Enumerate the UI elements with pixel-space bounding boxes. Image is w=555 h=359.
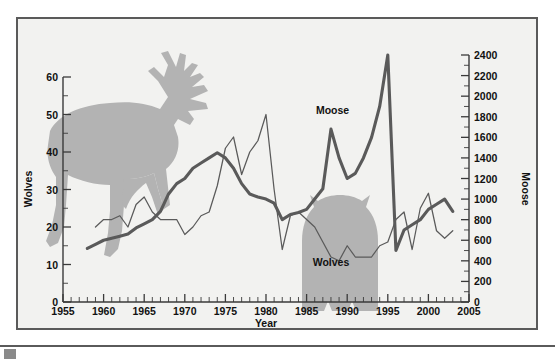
moose-series-label: Moose bbox=[316, 104, 349, 116]
y2-tick-label: 1200 bbox=[474, 173, 498, 185]
x-tick-label: 2005 bbox=[457, 305, 481, 317]
caption-divider bbox=[0, 345, 555, 347]
x-tick-label: 1995 bbox=[376, 305, 400, 317]
x-tick-label: 1990 bbox=[336, 305, 360, 317]
y2-tick-label: 1800 bbox=[474, 111, 498, 123]
y2-tick-label: 600 bbox=[474, 234, 492, 246]
wolf-silhouette-decoration bbox=[302, 195, 378, 311]
x-tick-label: 1980 bbox=[254, 305, 278, 317]
y2-tick-label: 200 bbox=[474, 275, 492, 287]
chart-frame: 60 50 40 30 20 10 0 Wolves bbox=[16, 17, 538, 330]
right-axis: 2400 2200 2000 1800 1600 1400 1200 1000 … bbox=[461, 49, 532, 308]
x-tick-label: 1970 bbox=[173, 305, 197, 317]
left-axis: 60 50 40 30 20 10 0 Wolves bbox=[22, 71, 71, 308]
y-tick-label: 40 bbox=[46, 146, 58, 158]
y-axis-title: Wolves bbox=[22, 171, 34, 208]
x-tick-label: 2000 bbox=[417, 305, 441, 317]
y2-tick-label: 2200 bbox=[474, 70, 498, 82]
y2-tick-label: 1600 bbox=[474, 131, 498, 143]
x-tick-label: 1960 bbox=[92, 305, 116, 317]
y-tick-label: 30 bbox=[46, 184, 58, 196]
y-tick-label: 50 bbox=[46, 109, 58, 121]
x-tick-label: 1975 bbox=[214, 305, 238, 317]
y2-tick-label: 400 bbox=[474, 255, 492, 267]
x-tick-label: 1965 bbox=[133, 305, 157, 317]
y-tick-label: 10 bbox=[46, 259, 58, 271]
y2-tick-label: 1400 bbox=[474, 152, 498, 164]
x-axis-title: Year bbox=[255, 317, 277, 328]
y2-tick-label: 1000 bbox=[474, 193, 498, 205]
y2-axis-title: Moose bbox=[520, 172, 532, 205]
caption-marker bbox=[4, 349, 16, 359]
y-tick-label: 20 bbox=[46, 221, 58, 233]
y-tick-label: 60 bbox=[46, 71, 58, 83]
y2-tick-label: 800 bbox=[474, 214, 492, 226]
x-axis: 1955 1960 1965 1970 1975 1980 1985 1990 … bbox=[51, 294, 481, 328]
chart-plot: 60 50 40 30 20 10 0 Wolves bbox=[18, 19, 536, 328]
x-tick-label: 1955 bbox=[51, 305, 75, 317]
y2-tick-label: 2000 bbox=[474, 90, 498, 102]
wolves-series-label: Wolves bbox=[313, 256, 350, 268]
y2-tick-label: 2400 bbox=[474, 49, 498, 61]
x-tick-label: 1985 bbox=[295, 305, 319, 317]
